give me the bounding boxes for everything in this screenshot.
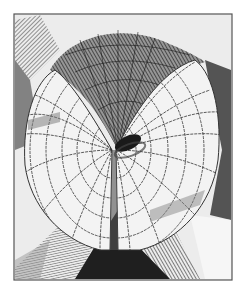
- surface-illustration: [0, 0, 247, 295]
- illustration-canvas: [0, 0, 247, 295]
